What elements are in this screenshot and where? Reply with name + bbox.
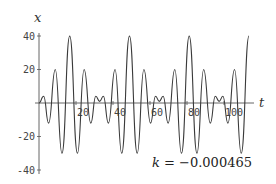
x-axis-label: t — [259, 95, 265, 110]
k-value: = −0.000465 — [160, 155, 252, 170]
y-tick-label: 20 — [23, 64, 35, 75]
x-tick-label: 100 — [225, 107, 243, 118]
line-chart: -40-202040 x 20406080100 t k = −0.000465 — [0, 0, 276, 184]
y-axis-label: x — [34, 10, 42, 25]
y-tick-label: 40 — [23, 31, 35, 42]
data-curve — [39, 36, 249, 153]
y-tick-label: -20 — [17, 131, 35, 142]
x-ticks: 20406080100 — [76, 101, 243, 118]
k-variable: k — [152, 155, 160, 170]
k-annotation: k = −0.000465 — [152, 155, 252, 170]
y-axis: -40-202040 x — [17, 10, 42, 176]
y-tick-label: -40 — [17, 165, 35, 176]
x-tick-label: 40 — [114, 107, 126, 118]
x-tick-label: 20 — [77, 107, 89, 118]
